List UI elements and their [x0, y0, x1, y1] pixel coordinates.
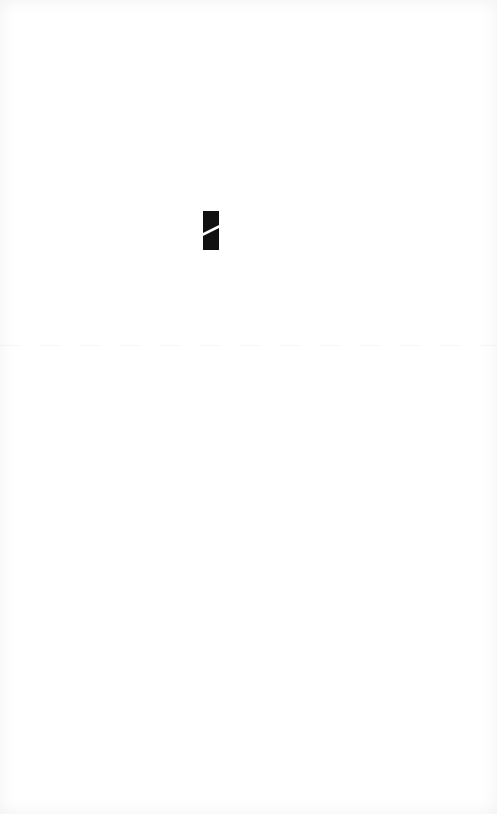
split-bar-icon: [203, 211, 219, 250]
faint-divider: [0, 345, 497, 346]
edge-shading: [0, 0, 497, 814]
blank-page: [0, 0, 497, 814]
